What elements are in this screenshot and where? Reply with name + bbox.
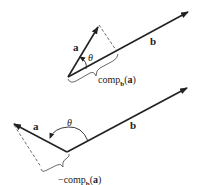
- bottom-component-brace: [41, 154, 69, 171]
- bottom-diagram: a b θ −compb(a): [14, 88, 187, 185]
- top-diagram: a b θ compb(a): [68, 12, 188, 88]
- bottom-label-a: a: [33, 120, 39, 132]
- bottom-label-theta: θ: [67, 117, 72, 128]
- top-label-b: b: [150, 35, 156, 47]
- bottom-component-label: −compb(a): [58, 174, 101, 185]
- top-label-theta: θ: [88, 52, 93, 63]
- top-label-a: a: [73, 41, 79, 53]
- top-component-label: compb(a): [98, 74, 136, 88]
- vector-projection-diagram: a b θ compb(a) a b θ −compb(a): [0, 0, 197, 185]
- bottom-label-b: b: [130, 119, 136, 131]
- bottom-angle-arc: [50, 127, 88, 141]
- bottom-vector-b: [67, 88, 187, 152]
- top-projection-dashed: [99, 25, 116, 50]
